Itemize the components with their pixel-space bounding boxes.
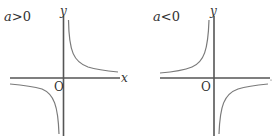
hyperbola-diagram: a>0 x y O a<0 y O (0, 0, 272, 138)
x-axis-label-truncated (270, 79, 271, 80)
panel-a-negative: a<0 y O (153, 4, 272, 136)
x-axis-label: x (121, 71, 128, 85)
origin-label: O (54, 80, 64, 94)
y-axis-label: y (59, 4, 67, 18)
curve-branch-quadrant-1 (69, 20, 119, 72)
curve-branch-quadrant-2 (160, 20, 209, 73)
condition-label: a>0 (4, 9, 31, 24)
origin-label: O (201, 80, 211, 94)
y-axis-label: y (209, 4, 217, 18)
panel-a-positive: a>0 x y O (4, 4, 128, 136)
curve-branch-quadrant-3 (10, 84, 59, 134)
curve-branch-quadrant-4 (219, 84, 268, 134)
condition-label: a<0 (153, 9, 180, 24)
